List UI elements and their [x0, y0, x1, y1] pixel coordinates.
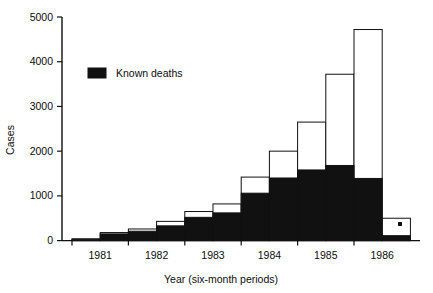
- x-axis-tick-label: 1986: [371, 249, 395, 261]
- y-axis-tick-label: 0: [47, 234, 53, 246]
- filled-square-icon: [88, 68, 106, 78]
- x-axis-tick-label: 1985: [314, 249, 338, 261]
- bar-known-deaths: [72, 239, 100, 240]
- bar-known-deaths: [213, 213, 241, 241]
- y-axis-title: Cases: [4, 125, 16, 155]
- legend: Known deaths: [88, 67, 183, 79]
- bar-known-deaths: [100, 234, 128, 241]
- bar-known-deaths: [269, 178, 297, 241]
- x-axis-tick-label: 1984: [258, 249, 282, 261]
- bar-known-deaths: [326, 165, 354, 240]
- bar-known-deaths: [128, 231, 156, 240]
- y-axis-tick-label: 3000: [30, 100, 54, 112]
- bar-known-deaths: [354, 178, 382, 240]
- x-axis-tick-label: 1981: [89, 249, 113, 261]
- x-axis-title: Year (six-month periods): [164, 273, 278, 285]
- y-axis-tick-label: 4000: [30, 55, 54, 67]
- stacked-bar-chart: 010002000300040005000 198119821983198419…: [0, 0, 433, 293]
- legend-item-label: Known deaths: [116, 67, 183, 79]
- x-axis-tick-label: 1982: [145, 249, 169, 261]
- asterisk-icon: [398, 222, 402, 226]
- y-axis-tick-label: 1000: [30, 189, 54, 201]
- bar-known-deaths: [157, 226, 185, 241]
- bar-known-deaths: [241, 193, 269, 240]
- x-axis-tick-label: 1983: [201, 249, 225, 261]
- bar-known-deaths: [298, 170, 326, 241]
- y-axis-tick-label: 5000: [30, 11, 54, 23]
- bar-known-deaths: [185, 217, 213, 240]
- y-axis-tick-label: 2000: [30, 145, 54, 157]
- bar-known-deaths: [382, 236, 410, 241]
- chart-container: 010002000300040005000 198119821983198419…: [0, 0, 433, 293]
